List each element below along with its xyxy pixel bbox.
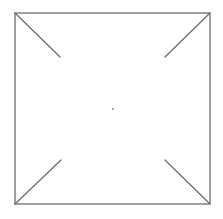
square-crosshair-diagram	[0, 0, 223, 219]
center-dot	[112, 108, 114, 110]
diagonal-top-left	[15, 13, 60, 57]
diagonal-bottom-left	[15, 160, 61, 204]
diagonal-top-right	[165, 13, 210, 57]
diagram-canvas	[0, 0, 223, 219]
diagonal-bottom-right	[165, 160, 210, 204]
